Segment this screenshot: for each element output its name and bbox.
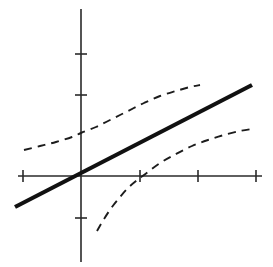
plot-canvas bbox=[0, 0, 273, 267]
chart-figure bbox=[0, 0, 273, 267]
